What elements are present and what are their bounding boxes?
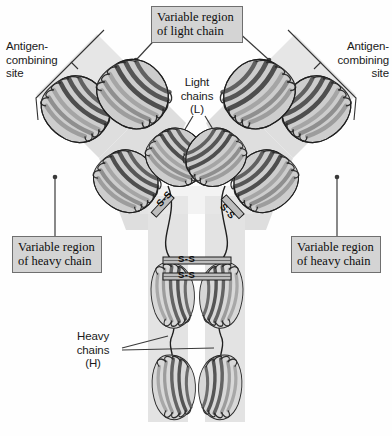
- label-antigen-combining-site-left: Antigen- combining site: [6, 40, 88, 81]
- label-variable-region-heavy-chain-right: Variable region of heavy chain: [291, 236, 381, 273]
- leader-dot-vh-right: [335, 175, 340, 180]
- disulfide-label-hinge-upper: S-S: [178, 253, 195, 264]
- leader-dot-vh-left: [53, 175, 58, 180]
- label-variable-region-light-chain: Variable region of light chain: [151, 6, 243, 43]
- disulfide-bar-hinge-upper: [163, 257, 231, 264]
- label-light-chains: Light chains (L): [172, 76, 222, 117]
- disulfide-label-hinge-lower: S-S: [178, 269, 195, 280]
- figure-canvas: Variable region of light chain Antigen- …: [0, 0, 392, 436]
- disulfide-bar-hinge-lower: [163, 273, 231, 280]
- label-antigen-combining-site-right: Antigen- combining site: [305, 40, 389, 81]
- label-variable-region-heavy-chain-left: Variable region of heavy chain: [12, 236, 102, 273]
- label-heavy-chains: Heavy chains (H): [66, 330, 120, 371]
